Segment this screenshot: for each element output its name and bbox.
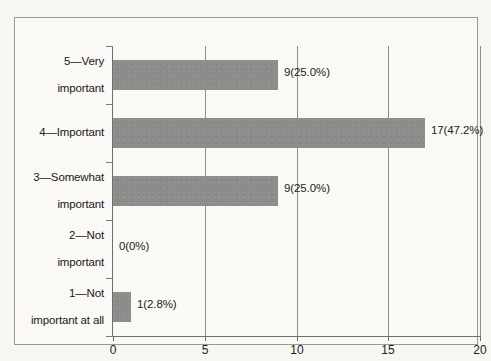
- category-label-line2: important: [57, 82, 104, 96]
- category-label-line1: 1—Not: [31, 287, 104, 301]
- category-axis-labels: 5—Very important 4—Important 3—Somewhat …: [0, 46, 113, 336]
- category-label-1-not-important-at-all: 1—Not important at all: [0, 278, 104, 336]
- x-tick-label-0: 0: [110, 343, 117, 357]
- category-label-line1: 4—Important: [39, 126, 104, 140]
- x-tick-label-10: 10: [290, 343, 303, 357]
- bar-1-not-important-at-all[interactable]: [113, 292, 131, 322]
- x-axis-tick: [113, 336, 114, 341]
- category-label-line1: 5—Very: [57, 55, 104, 69]
- category-label-3-somewhat-important: 3—Somewhat important: [0, 162, 104, 220]
- gridline-15: [388, 46, 389, 336]
- x-axis-tick: [388, 336, 389, 341]
- category-label-line2: important at all: [31, 314, 104, 328]
- x-axis-tick-labels: 0 5 10 15 20: [113, 343, 481, 361]
- category-label-line1: 3—Somewhat: [33, 171, 104, 185]
- bar-value-label: 9(25.0%): [284, 182, 330, 194]
- x-tick-label-20: 20: [473, 343, 486, 357]
- gridline-20: [480, 46, 481, 336]
- x-axis-tick: [480, 336, 481, 341]
- category-label-line2: important: [57, 256, 104, 270]
- bar-4-important[interactable]: [113, 118, 425, 148]
- plot-area: 5—Very important 4—Important 3—Somewhat …: [113, 46, 480, 336]
- category-label-5-very-important: 5—Very important: [0, 46, 104, 104]
- y-axis-tick: [106, 336, 113, 337]
- bar-value-label: 0(0%): [119, 240, 149, 252]
- bar-value-label: 1(2.8%): [137, 298, 177, 310]
- category-label-4-important: 4—Important: [0, 104, 104, 162]
- x-axis-tick: [297, 336, 298, 341]
- bar-value-label: 9(25.0%): [284, 66, 330, 78]
- x-tick-label-5: 5: [202, 343, 209, 357]
- category-label-2-not-important: 2—Not important: [0, 220, 104, 278]
- x-tick-label-15: 15: [381, 343, 394, 357]
- figure-frame: 5—Very important 4—Important 3—Somewhat …: [14, 17, 478, 345]
- x-axis-tick: [205, 336, 206, 341]
- bar-3-somewhat-important[interactable]: [113, 176, 278, 206]
- category-label-line1: 2—Not: [57, 229, 104, 243]
- category-label-line2: important: [33, 198, 104, 212]
- bar-5-very-important[interactable]: [113, 60, 278, 90]
- bar-value-label: 17(47.2%): [431, 124, 483, 136]
